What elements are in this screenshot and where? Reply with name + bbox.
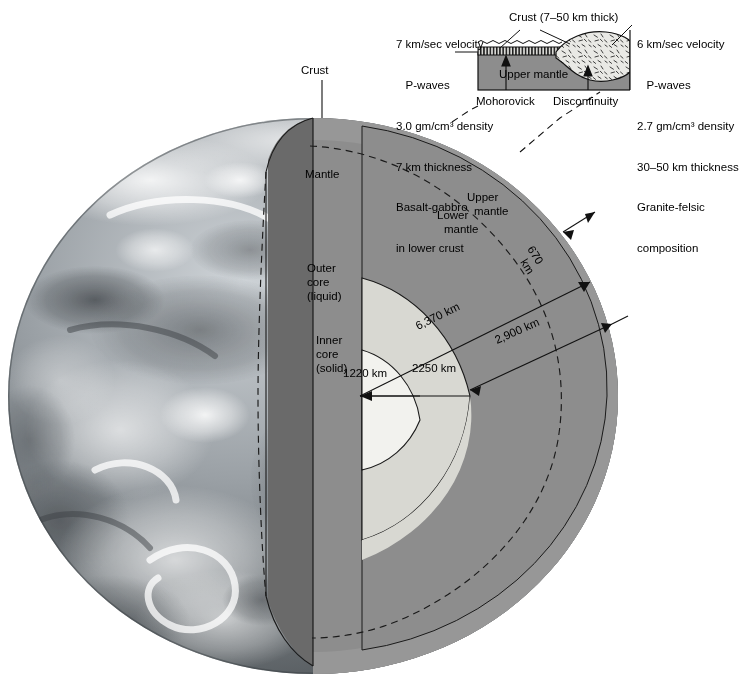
oceanic-line-2: P-waves (396, 79, 493, 93)
continental-line-2: P-waves (637, 79, 739, 93)
continental-crust-properties: 6 km/sec velocity P-waves 2.7 gm/cm³ den… (637, 11, 739, 269)
inset-upper-mantle-label: Upper mantle (499, 68, 568, 80)
label-crust: Crust (301, 64, 329, 76)
label-outer-core-2: core (307, 276, 329, 288)
label-mantle: Mantle (305, 168, 340, 180)
label-inner-core-1: Inner (316, 334, 342, 346)
label-outer-core-3: (liquid) (307, 290, 342, 302)
oceanic-line-5: Basalt-gabbro (396, 201, 493, 215)
continental-line-6: composition (637, 242, 739, 256)
dim-outer-core-radius: 2250 km (412, 362, 456, 374)
oceanic-line-4: 7 km thickness (396, 161, 493, 175)
inset-crust-callout: Crust (7–50 km thick) (509, 11, 618, 23)
oceanic-crust-properties: 7 km/sec velocity P-waves 3.0 gm/cm³ den… (396, 11, 493, 269)
dim-inner-core-radius: 1220 km (343, 367, 387, 379)
continental-line-4: 30–50 km thickness (637, 161, 739, 175)
continental-line-3: 2.7 gm/cm³ density (637, 120, 739, 134)
oceanic-line-6: in lower crust (396, 242, 493, 256)
label-inner-core-2: core (316, 348, 338, 360)
inset-moho-right: Discontinuity (553, 95, 618, 107)
oceanic-line-3: 3.0 gm/cm³ density (396, 120, 493, 134)
oceanic-line-1: 7 km/sec velocity (396, 38, 493, 52)
continental-line-1: 6 km/sec velocity (637, 38, 739, 52)
label-outer-core-1: Outer (307, 262, 336, 274)
continental-line-5: Granite-felsic (637, 201, 739, 215)
